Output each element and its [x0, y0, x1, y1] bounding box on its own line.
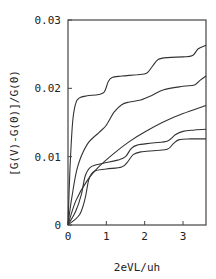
- x-tick-label: 3: [180, 230, 187, 243]
- plot-area: [68, 20, 206, 225]
- x-tick-label: 2: [141, 230, 148, 243]
- y-tick-label: 0.02: [35, 82, 62, 95]
- x-axis-ticks: 0123: [65, 221, 187, 243]
- y-tick-label: 0: [54, 219, 61, 232]
- y-tick-label: 0.03: [35, 14, 62, 27]
- series-line-curve-2: [68, 76, 206, 225]
- chart: 0123 00.010.020.03 2eVL/uh [G(V)-G(0)]/G…: [0, 0, 216, 279]
- series-group: [68, 45, 206, 225]
- series-line-curve-1: [68, 45, 206, 225]
- x-tick-label: 1: [103, 230, 110, 243]
- x-axis-title: 2eVL/uh: [114, 261, 160, 274]
- axes-frame: [68, 20, 206, 225]
- y-tick-label: 0.01: [35, 151, 62, 164]
- series-line-curve-3: [68, 105, 206, 225]
- x-tick-label: 0: [65, 230, 72, 243]
- series-line-curve-5: [68, 139, 206, 225]
- y-axis-ticks: 00.010.020.03: [35, 14, 73, 232]
- y-axis-title: [G(V)-G(0)]/G(0): [8, 70, 21, 176]
- series-line-curve-4: [68, 129, 206, 225]
